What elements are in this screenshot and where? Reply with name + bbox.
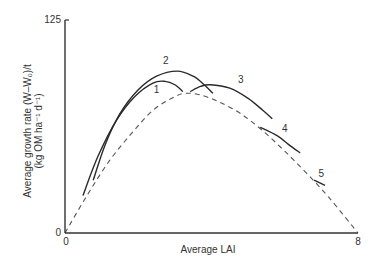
y-axis-title-line2: (kg OM ha⁻¹ d⁻¹) xyxy=(33,93,44,168)
y-axis-title-line1: Average growth rate (W–W₀)/t xyxy=(22,64,33,198)
x-tick-zero: 0 xyxy=(63,236,69,247)
y-axis-title: Average growth rate (W–W₀)/t (kg OM ha⁻¹… xyxy=(22,64,44,198)
y-tick-max: 125 xyxy=(44,14,61,25)
curve-3 xyxy=(190,85,272,119)
curve-label-2: 2 xyxy=(163,55,169,66)
x-axis-title: Average LAI xyxy=(181,244,236,255)
curve-4 xyxy=(260,127,300,153)
curve-5 xyxy=(314,180,325,185)
growth-rate-chart: 12345 125 0 0 8 Average LAI Average grow… xyxy=(0,0,381,272)
envelope-curve xyxy=(65,93,358,233)
curve-label-4: 4 xyxy=(282,123,288,134)
curve-label-1: 1 xyxy=(154,84,160,95)
curve-label-5: 5 xyxy=(319,168,325,179)
curve-label-3: 3 xyxy=(238,74,244,85)
y-tick-zero: 0 xyxy=(55,227,61,238)
x-tick-max: 8 xyxy=(355,236,361,247)
plot-area: 12345 xyxy=(65,55,358,233)
